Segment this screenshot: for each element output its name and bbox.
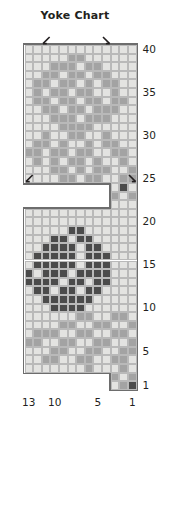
chart-cell [102, 79, 111, 88]
chart-cell [102, 209, 111, 218]
chart-cell [111, 295, 120, 304]
chart-cell [102, 62, 111, 71]
chart-bottom-edge [109, 390, 138, 392]
chart-cell [42, 209, 51, 218]
chart-cell [59, 88, 68, 97]
chart-cell [93, 97, 102, 106]
chart-cell [85, 88, 94, 97]
chart-cell [25, 321, 34, 330]
chart-cell [128, 79, 137, 88]
chart-cell [85, 97, 94, 106]
chart-cell [33, 226, 42, 235]
chart-cell [42, 269, 51, 278]
chart-cell [85, 71, 94, 80]
chart-cell [33, 321, 42, 330]
chart-cell [59, 140, 68, 149]
chart-cell [42, 79, 51, 88]
chart-cell [119, 355, 128, 364]
chart-cell [85, 347, 94, 356]
chart-cell [128, 157, 137, 166]
chart-cell [25, 54, 34, 63]
chart-cell [102, 243, 111, 252]
chart-cell [59, 97, 68, 106]
chart-cell [42, 261, 51, 270]
chart-cell [42, 338, 51, 347]
chart-cell [111, 105, 120, 114]
chart-cell [25, 62, 34, 71]
chart-cell [25, 304, 34, 313]
chart-cell [111, 226, 120, 235]
chart-cell [119, 114, 128, 123]
chart-cell [33, 278, 42, 287]
column-label: 1 [122, 396, 142, 408]
chart-cell [119, 329, 128, 338]
chart-cell [68, 278, 77, 287]
chart-cell [76, 71, 85, 80]
chart-cell [59, 226, 68, 235]
chart-cell [111, 71, 120, 80]
chart-cell [102, 140, 111, 149]
chart-cell [42, 62, 51, 71]
chart-cell [50, 209, 59, 218]
chart-cell [119, 62, 128, 71]
chart-cell [76, 79, 85, 88]
chart-cell [68, 140, 77, 149]
chart-cell [128, 295, 137, 304]
chart-left-edge-notch [109, 183, 111, 209]
chart-cell [111, 183, 120, 192]
chart-cell [93, 148, 102, 157]
chart-cell [119, 54, 128, 63]
chart-cell [25, 114, 34, 123]
chart-cell [42, 364, 51, 373]
chart-cell [68, 88, 77, 97]
chart-cell [50, 71, 59, 80]
chart-cell [128, 226, 137, 235]
chart-cell [128, 364, 137, 373]
chart-cell [128, 217, 137, 226]
chart-cell [50, 131, 59, 140]
chart-cell [85, 269, 94, 278]
chart-cell [93, 261, 102, 270]
chart-cell [68, 71, 77, 80]
chart-cell [119, 209, 128, 218]
chart-cell [102, 45, 111, 54]
chart-cell [128, 381, 137, 390]
chart-cell [93, 88, 102, 97]
chart-cell [119, 71, 128, 80]
chart-cell [119, 97, 128, 106]
chart-cell [50, 148, 59, 157]
chart-cell [111, 355, 120, 364]
chart-cell [25, 243, 34, 252]
chart-cell [50, 217, 59, 226]
chart-cell [111, 148, 120, 157]
chart-cell [128, 200, 137, 209]
chart-cell [42, 131, 51, 140]
chart-cell [42, 71, 51, 80]
chart-cell [85, 295, 94, 304]
chart-cell [33, 209, 42, 218]
chart-cell [76, 45, 85, 54]
chart-cell [93, 355, 102, 364]
yoke-chart-grid: 4035302520151051131051 [0, 0, 183, 522]
chart-cell [111, 304, 120, 313]
chart-cell [33, 364, 42, 373]
chart-cell [85, 329, 94, 338]
chart-cell [93, 217, 102, 226]
chart-cell [102, 329, 111, 338]
chart-cell [119, 88, 128, 97]
chart-cell [102, 174, 111, 183]
chart-cell [33, 148, 42, 157]
chart-cell [111, 269, 120, 278]
chart-cell [59, 347, 68, 356]
chart-cell [33, 45, 42, 54]
chart-cell [33, 140, 42, 149]
chart-cell [25, 278, 34, 287]
row-label: 25 [143, 172, 156, 184]
chart-cell [68, 131, 77, 140]
chart-cell [42, 226, 51, 235]
chart-cell [93, 79, 102, 88]
chart-cell [68, 355, 77, 364]
chart-cell [50, 278, 59, 287]
chart-cell [33, 131, 42, 140]
chart-cell [93, 45, 102, 54]
